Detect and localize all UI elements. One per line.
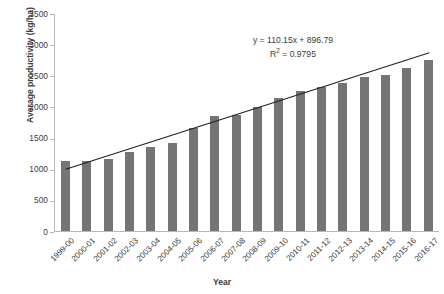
y-tick-mark xyxy=(50,201,54,202)
regression-equation-annotation: y = 110.15x + 896.79 R2 = 0.9795 xyxy=(208,34,378,61)
bar-cell xyxy=(375,14,396,231)
equation-text: y = 110.15x + 896.79 xyxy=(208,34,378,46)
y-tick-label: 0 xyxy=(14,228,48,236)
bar[interactable] xyxy=(317,87,326,231)
bar[interactable] xyxy=(360,77,369,231)
bar[interactable] xyxy=(210,116,219,231)
bar[interactable] xyxy=(82,161,91,231)
bar[interactable] xyxy=(274,98,283,231)
bar-cell xyxy=(55,14,76,231)
bar[interactable] xyxy=(125,152,134,231)
y-tick-label: 2000 xyxy=(14,103,48,111)
y-axis-tick-labels: 0500100015002000250030003500 xyxy=(14,0,48,294)
bar-cell xyxy=(418,14,439,231)
bar[interactable] xyxy=(146,147,155,231)
bar-cell xyxy=(140,14,161,231)
y-tick-label: 3000 xyxy=(14,41,48,49)
y-tick-mark xyxy=(50,170,54,171)
bar-cell xyxy=(98,14,119,231)
bar[interactable] xyxy=(232,115,241,231)
bar[interactable] xyxy=(424,60,433,231)
x-axis-title: Year xyxy=(0,277,444,287)
bar[interactable] xyxy=(381,75,390,231)
bar[interactable] xyxy=(253,107,262,231)
bar[interactable] xyxy=(104,159,113,231)
bar[interactable] xyxy=(296,91,305,231)
bar[interactable] xyxy=(338,83,347,231)
y-tick-label: 1500 xyxy=(14,134,48,142)
y-tick-mark xyxy=(50,76,54,77)
y-tick-mark xyxy=(50,14,54,15)
bar[interactable] xyxy=(61,161,70,231)
bar-cell xyxy=(183,14,204,231)
chart-container: Average productivity (kg/ha) 05001000150… xyxy=(0,0,444,294)
y-tick-label: 1000 xyxy=(14,165,48,173)
y-tick-mark xyxy=(50,107,54,108)
r-value: = 0.9795 xyxy=(280,49,316,59)
bar[interactable] xyxy=(189,128,198,231)
bar[interactable] xyxy=(168,143,177,231)
bar-cell xyxy=(396,14,417,231)
y-tick-mark xyxy=(50,232,54,233)
y-tick-label: 2500 xyxy=(14,72,48,80)
x-axis-tick-labels: 1999-002000-012001-022002-032003-042004-… xyxy=(54,234,439,276)
bar[interactable] xyxy=(402,68,411,231)
r-squared-text: R2 = 0.9795 xyxy=(208,46,378,60)
bar-cell xyxy=(119,14,140,231)
bar-cell xyxy=(76,14,97,231)
bar-cell xyxy=(162,14,183,231)
y-tick-mark xyxy=(50,139,54,140)
y-tick-label: 500 xyxy=(14,196,48,204)
y-tick-label: 3500 xyxy=(14,10,48,18)
y-tick-mark xyxy=(50,45,54,46)
